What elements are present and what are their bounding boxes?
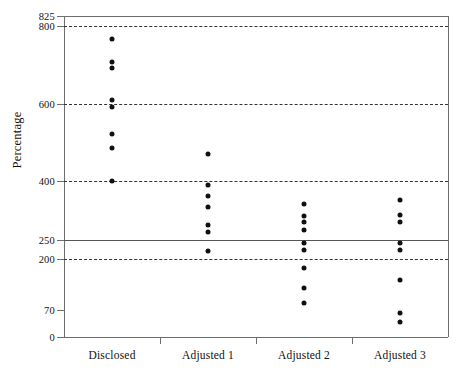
- data-point: [110, 60, 115, 65]
- reference-line-250: [64, 240, 448, 241]
- data-point: [110, 145, 115, 150]
- y-axis-tick-400: [57, 181, 64, 182]
- y-axis-tick-825: [57, 16, 64, 17]
- y-axis-line: [64, 16, 65, 337]
- data-point: [398, 319, 403, 324]
- data-point: [110, 98, 115, 103]
- data-point: [206, 182, 211, 187]
- data-point: [110, 178, 115, 183]
- y-axis-tick-label-250: 250: [39, 234, 55, 245]
- data-point: [302, 201, 307, 206]
- data-point: [302, 266, 307, 271]
- x-axis-category-label-2: Adjusted 1: [182, 349, 234, 361]
- x-axis-category-label-3: Adjusted 2: [278, 349, 330, 361]
- data-point: [302, 228, 307, 233]
- y-axis-tick-70: [57, 310, 64, 311]
- plot-border-top: [64, 16, 448, 17]
- x-axis-tick-3: [352, 337, 353, 344]
- y-axis-tick-200: [57, 259, 64, 260]
- y-axis-tick-800: [57, 26, 64, 27]
- plot-area: 070200250400600800825 DisclosedAdjusted …: [64, 16, 448, 337]
- data-point: [302, 219, 307, 224]
- reference-line-400: [64, 181, 448, 182]
- plot-border-right: [448, 16, 449, 337]
- data-point: [398, 247, 403, 252]
- data-point: [302, 240, 307, 245]
- data-point: [398, 219, 403, 224]
- y-axis-tick-label-200: 200: [39, 254, 55, 265]
- reference-line-200: [64, 259, 448, 260]
- y-axis-tick-label-70: 70: [44, 304, 55, 315]
- y-axis-tick-0: [57, 337, 64, 338]
- data-point: [302, 247, 307, 252]
- x-axis-category-label-1: Disclosed: [88, 349, 135, 361]
- data-point: [302, 285, 307, 290]
- data-point: [398, 277, 403, 282]
- y-axis-tick-label-400: 400: [39, 176, 55, 187]
- y-axis-tick-label-0: 0: [50, 332, 55, 343]
- y-axis-tick-label-825: 825: [39, 11, 55, 22]
- data-point: [110, 66, 115, 71]
- x-axis-tick-1: [160, 337, 161, 344]
- reference-line-800: [64, 26, 448, 27]
- x-axis-tick-2: [256, 337, 257, 344]
- data-point: [398, 310, 403, 315]
- data-point: [110, 37, 115, 42]
- y-axis-title: Percentage: [10, 95, 28, 185]
- data-point: [398, 240, 403, 245]
- data-point: [206, 152, 211, 157]
- data-point: [206, 249, 211, 254]
- reference-line-600: [64, 104, 448, 105]
- x-axis-category-label-4: Adjusted 3: [374, 349, 426, 361]
- y-axis-tick-600: [57, 104, 64, 105]
- data-point: [398, 213, 403, 218]
- y-axis-tick-250: [57, 240, 64, 241]
- data-point: [206, 205, 211, 210]
- data-point: [398, 198, 403, 203]
- data-point: [302, 213, 307, 218]
- data-point: [110, 131, 115, 136]
- data-point: [206, 222, 211, 227]
- data-point: [110, 105, 115, 110]
- chart-figure: Percentage 070200250400600800825 Disclos…: [0, 0, 465, 377]
- data-point: [206, 194, 211, 199]
- data-point: [302, 301, 307, 306]
- y-axis-tick-label-600: 600: [39, 98, 55, 109]
- data-point: [206, 229, 211, 234]
- y-axis-tick-label-800: 800: [39, 20, 55, 31]
